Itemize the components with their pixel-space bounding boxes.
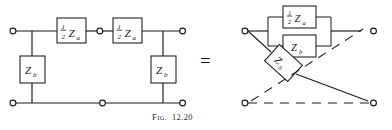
- terminal-top-middle: [97, 28, 103, 34]
- caption-prefix-smallcaps: IG.: [157, 114, 167, 121]
- equals-sign: =: [200, 50, 211, 72]
- series-arm-1-denominator: 2: [62, 33, 66, 41]
- lattice-series-subscript: a: [303, 19, 306, 26]
- lattice-terminal-bottom-left: [242, 100, 248, 106]
- terminal-bottom-right: [180, 100, 186, 106]
- terminal-top-right: [180, 28, 186, 34]
- terminal-bottom-left: [10, 100, 16, 106]
- right-circuit-lattice-network: 1 2 Z a Z b Z b: [242, 6, 376, 106]
- terminal-top-left: [10, 28, 16, 34]
- lattice-series-impedance: Z: [295, 13, 301, 24]
- series-arm-2-impedance: Z: [125, 27, 132, 39]
- left-circuit-t-network: 1 2 Z a 1 2 Z a Z b: [10, 18, 185, 106]
- shunt-arm-left-impedance: Z: [25, 64, 32, 76]
- series-arm-2-denominator: 2: [118, 33, 122, 41]
- lattice-terminal-bottom-right: [371, 100, 377, 106]
- figure-caption: FIG. 12.20: [152, 112, 193, 122]
- series-arm-1-subscript: a: [77, 34, 81, 42]
- shunt-arm-left-subscript: b: [33, 71, 37, 79]
- lattice-terminal-top-left: [242, 28, 248, 34]
- figure-container: 1 2 Z a 1 2 Z a Z b: [0, 0, 392, 130]
- series-arm-2-subscript: a: [133, 34, 137, 42]
- shunt-arm-right-subscript: b: [164, 71, 168, 79]
- lattice-series-coefficient: 1: [288, 9, 291, 16]
- series-arm-1-coefficient: 1: [62, 23, 66, 31]
- caption-number: 12.20: [172, 112, 193, 122]
- shunt-arm-right-impedance: Z: [156, 64, 163, 76]
- series-arm-1-impedance: Z: [69, 27, 76, 39]
- circuit-diagram-svg: 1 2 Z a 1 2 Z a Z b: [0, 0, 392, 130]
- series-arm-2-coefficient: 1: [118, 23, 122, 31]
- lattice-terminal-top-right: [371, 28, 377, 34]
- lattice-diagonal-solid-lower: [296, 74, 368, 101]
- lattice-parallel-impedance: Z: [291, 42, 297, 53]
- terminal-bottom-middle: [100, 100, 106, 106]
